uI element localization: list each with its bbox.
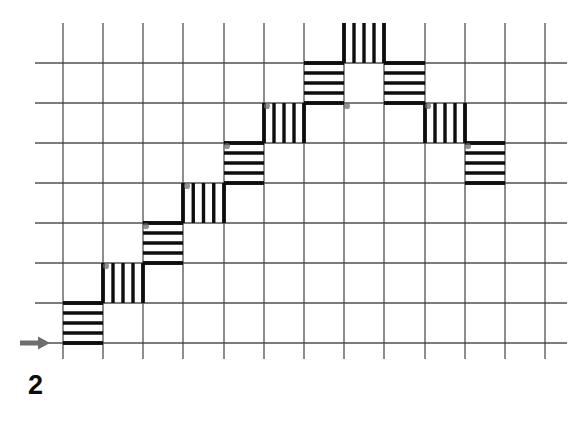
- corner-marker: [224, 143, 230, 149]
- corner-marker: [103, 263, 109, 269]
- corner-marker: [344, 103, 350, 109]
- corner-marker: [425, 103, 431, 109]
- corner-marker: [465, 143, 471, 149]
- corner-marker: [143, 223, 149, 229]
- staircase-hatch-figure: [0, 0, 583, 422]
- corner-marker: [264, 103, 270, 109]
- figure-container: 2: [0, 0, 583, 422]
- figure-caption-label: 2: [28, 372, 43, 399]
- corner-marker: [184, 183, 190, 189]
